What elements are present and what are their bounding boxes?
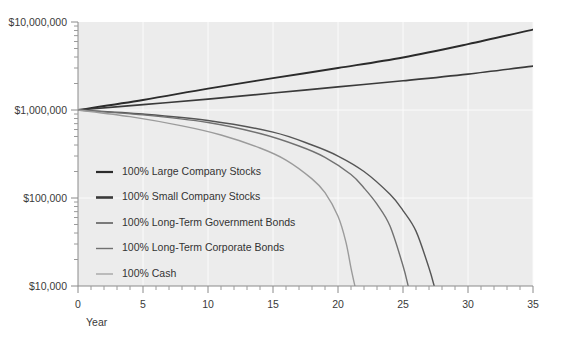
x-tick-label: 10	[202, 298, 214, 310]
x-tick-label: 5	[140, 298, 146, 310]
x-tick-label: 0	[75, 298, 81, 310]
legend-label: 100% Small Company Stocks	[122, 190, 260, 202]
chart-container: $10,000,000$1,000,000$100,000$10,000 051…	[0, 0, 561, 341]
legend-label: 100% Long-Term Corporate Bonds	[122, 241, 284, 253]
investment-growth-line-chart: $10,000,000$1,000,000$100,000$10,000 051…	[0, 0, 561, 341]
legend-label: 100% Large Company Stocks	[122, 165, 261, 177]
y-tick-label: $100,000	[23, 192, 67, 204]
x-axis-title: Year	[86, 316, 108, 328]
legend-item: 100% Long-Term Corporate Bonds	[96, 241, 284, 253]
legend-label: 100% Long-Term Government Bonds	[122, 216, 295, 228]
y-tick-label: $1,000,000	[14, 104, 67, 116]
legend-label: 100% Cash	[122, 267, 176, 279]
x-tick-label: 30	[462, 298, 474, 310]
x-tick-label: 35	[527, 298, 539, 310]
x-tick-label: 25	[397, 298, 409, 310]
x-tick-label: 15	[267, 298, 279, 310]
legend-item: 100% Long-Term Government Bonds	[96, 216, 295, 228]
y-tick-label: $10,000,000	[9, 16, 68, 28]
x-tick-label: 20	[332, 298, 344, 310]
y-tick-label: $10,000	[29, 280, 67, 292]
